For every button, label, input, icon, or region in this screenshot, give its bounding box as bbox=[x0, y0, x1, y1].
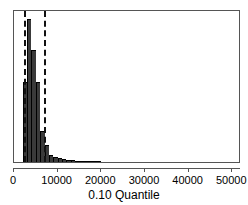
x-axis-tick-label: 10000 bbox=[41, 174, 72, 186]
histogram-bar bbox=[97, 161, 101, 162]
upper-reference-line bbox=[44, 11, 46, 162]
x-axis-tick bbox=[144, 168, 145, 172]
x-axis-title: 0.10 Quantile bbox=[0, 188, 248, 202]
x-axis-tick bbox=[100, 168, 101, 172]
x-axis-tick-label: 0 bbox=[10, 174, 16, 186]
plot-frame bbox=[13, 10, 240, 163]
x-axis-tick bbox=[13, 168, 14, 172]
plot-area bbox=[14, 11, 239, 162]
x-axis-tick-label: 20000 bbox=[85, 174, 116, 186]
x-axis-tick-label: 40000 bbox=[172, 174, 203, 186]
lower-reference-line bbox=[24, 11, 26, 162]
x-axis-line bbox=[13, 168, 240, 169]
x-axis-tick bbox=[188, 168, 189, 172]
histogram-figure: 01000020000300004000050000 0.10 Quantile bbox=[0, 0, 248, 205]
x-axis-tick-label: 50000 bbox=[216, 174, 247, 186]
x-axis-tick bbox=[231, 168, 232, 172]
x-axis-tick bbox=[57, 168, 58, 172]
x-axis-tick-label: 30000 bbox=[129, 174, 160, 186]
